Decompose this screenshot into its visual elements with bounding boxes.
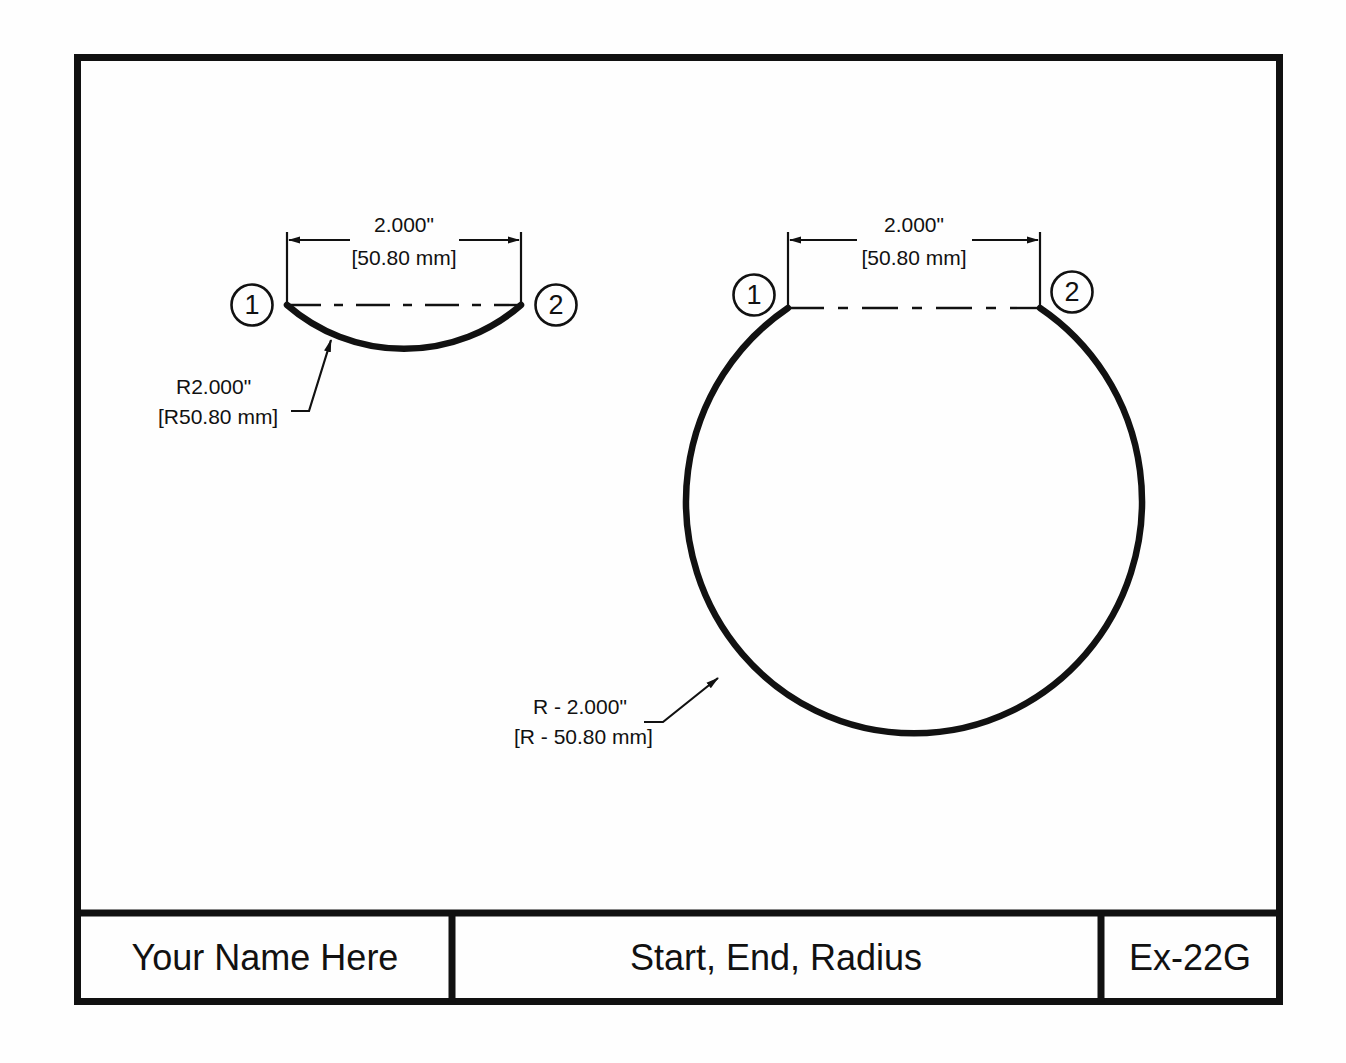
right-radius-callout-inch: R - 2.000" [533,695,627,718]
title-block-name-field: Your Name Here [132,937,399,978]
left-dimension-mm: [50.80 mm] [351,246,456,269]
right-major-arc [686,308,1142,733]
sheet-border [78,58,1280,1002]
right-dimension-inch: 2.000" [884,213,944,236]
right-radius-callout-mm: [R - 50.80 mm] [514,725,653,748]
title-block-title-field: Start, End, Radius [630,937,922,978]
right-balloon-1-label: 1 [746,280,761,310]
left-minor-arc [287,305,521,349]
drawing-canvas: 2.000" [50.80 mm] 1 2 R2.000" [R50.80 mm… [0,0,1346,1063]
right-dimension-mm: [50.80 mm] [861,246,966,269]
right-radius-leader-line [644,678,718,722]
left-dimension-inch: 2.000" [374,213,434,236]
left-radius-leader-line [291,340,331,411]
drawing-sheet: 2.000" [50.80 mm] 1 2 R2.000" [R50.80 mm… [0,0,1346,1063]
left-radius-callout-inch: R2.000" [176,375,251,398]
left-balloon-1-label: 1 [244,290,259,320]
left-radius-callout-mm: [R50.80 mm] [158,405,278,428]
right-balloon-2-label: 2 [1064,277,1079,307]
title-block-exercise-field: Ex-22G [1129,937,1251,978]
left-balloon-2-label: 2 [548,290,563,320]
